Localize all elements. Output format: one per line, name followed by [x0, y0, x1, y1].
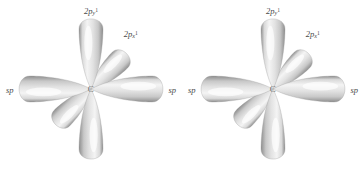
label-2px-sup: 1 [317, 30, 320, 36]
label-sp-left: sp [188, 86, 196, 95]
orbital-lobe-sp-right [91, 76, 165, 102]
label-2px-sup: 1 [135, 30, 138, 36]
orbital-lobe-sp-left [17, 76, 91, 102]
label-2px: 2px1 [124, 30, 138, 39]
label-2py: 2py1 [266, 7, 280, 16]
label-2py-sup: 1 [277, 7, 280, 13]
label-2px-base: 2p [124, 29, 133, 39]
orbital-lobe-2py-up [79, 17, 103, 89]
label-2px-base: 2p [306, 29, 315, 39]
label-2py: 2py1 [84, 7, 98, 16]
label-2py-base: 2p [84, 6, 93, 16]
label-sp-left: sp [6, 86, 14, 95]
central-atom-label: C [88, 84, 94, 94]
label-sp-right: sp [350, 86, 358, 95]
orbital-lobe-sp-right [273, 76, 347, 102]
panel-left: C 2py1 2px1 sp sp [0, 0, 182, 178]
panel-right: C 2py1 2px1 sp sp [182, 0, 364, 178]
orbital-lobe-2py-up [261, 17, 285, 89]
label-sp-right: sp [168, 86, 176, 95]
orbital-lobe-2py-down [79, 89, 103, 161]
label-2py-base: 2p [266, 6, 275, 16]
orbital-lobe-sp-left [199, 76, 273, 102]
orbital-figure: C 2py1 2px1 sp sp C 2py1 2px1 sp sp [0, 0, 364, 178]
central-atom-label: C [270, 84, 276, 94]
orbital-lobe-2py-down [261, 89, 285, 161]
label-2px: 2px1 [306, 30, 320, 39]
label-2py-sup: 1 [95, 7, 98, 13]
